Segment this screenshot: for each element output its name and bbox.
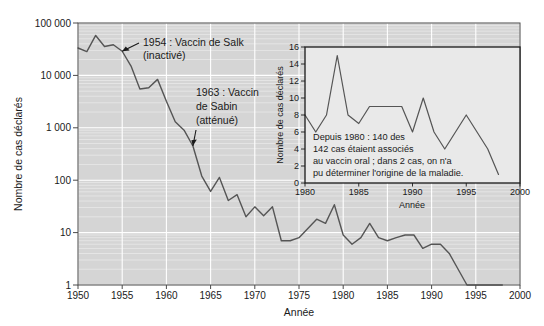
main-x-tick-8: 1990 <box>420 290 443 301</box>
inset-y-tick-2: 4 <box>294 144 299 154</box>
main-x-tick-9: 1995 <box>465 290 488 301</box>
inset-note-line-4: pu déterminer l'origine de la maladie. <box>313 168 463 178</box>
inset-y-axis-title: Nombre de cas déclarés <box>275 66 285 164</box>
inset-note-line-2: 142 cas étaient associés <box>313 144 414 154</box>
inset-y-tick-6: 12 <box>289 76 299 86</box>
chart-canvas: 1101001 00010 000100 000 195019551960196… <box>0 0 544 326</box>
annotation-sabin-line-2: de Sabin <box>196 100 238 112</box>
annotation-sabin-line-1: 1963 : Vaccin <box>196 86 259 98</box>
main-x-tick-4: 1970 <box>244 290 267 301</box>
main-y-tick-1: 10 <box>60 227 72 238</box>
main-x-tick-6: 1980 <box>332 290 355 301</box>
main-x-tick-10: 2000 <box>509 290 532 301</box>
inset-x-tick-2: 1990 <box>402 187 422 197</box>
main-y-axis-title: Nombre de cas déclarés <box>12 97 24 211</box>
inset-note-line-3: au vaccin oral ; dans 2 cas, on n'a <box>313 156 453 166</box>
main-y-tick-4: 10 000 <box>40 70 71 81</box>
inset-y-tick-4: 8 <box>294 110 299 120</box>
inset-y-tick-5: 10 <box>289 93 299 103</box>
inset-y-tick-7: 14 <box>289 59 299 69</box>
inset-y-tick-8: 16 <box>289 42 299 52</box>
annotation-salk-line-1: 1954 : Vaccin de Salk <box>143 36 245 48</box>
inset-x-axis-title: Année <box>399 200 425 210</box>
main-x-tick-3: 1965 <box>199 290 222 301</box>
main-x-tick-5: 1975 <box>288 290 311 301</box>
annotation-salk-line-2: (inactivé) <box>143 49 186 61</box>
inset-x-tick-1: 1985 <box>349 187 369 197</box>
main-x-tick-0: 1950 <box>67 290 90 301</box>
main-y-tick-0: 1 <box>65 280 71 291</box>
main-x-tick-7: 1985 <box>376 290 399 301</box>
inset-note-line-1: Depuis 1980 : 140 des <box>313 132 405 142</box>
main-x-tick-2: 1960 <box>155 290 178 301</box>
inset-x-tick-3: 1995 <box>456 187 476 197</box>
annotation-sabin-line-3: (atténué) <box>196 114 238 126</box>
main-y-tick-2: 100 <box>54 175 71 186</box>
main-x-tick-1: 1955 <box>111 290 134 301</box>
polio-cases-figure: 1101001 00010 000100 000 195019551960196… <box>0 0 544 326</box>
inset-x-tick-4: 2000 <box>510 187 530 197</box>
inset-x-tick-0: 1980 <box>295 187 315 197</box>
inset-y-tick-1: 2 <box>294 161 299 171</box>
main-x-axis-title: Année <box>284 306 315 318</box>
main-y-tick-3: 1 000 <box>46 122 71 133</box>
inset-y-tick-3: 6 <box>294 127 299 137</box>
main-y-tick-5: 100 000 <box>35 18 72 29</box>
